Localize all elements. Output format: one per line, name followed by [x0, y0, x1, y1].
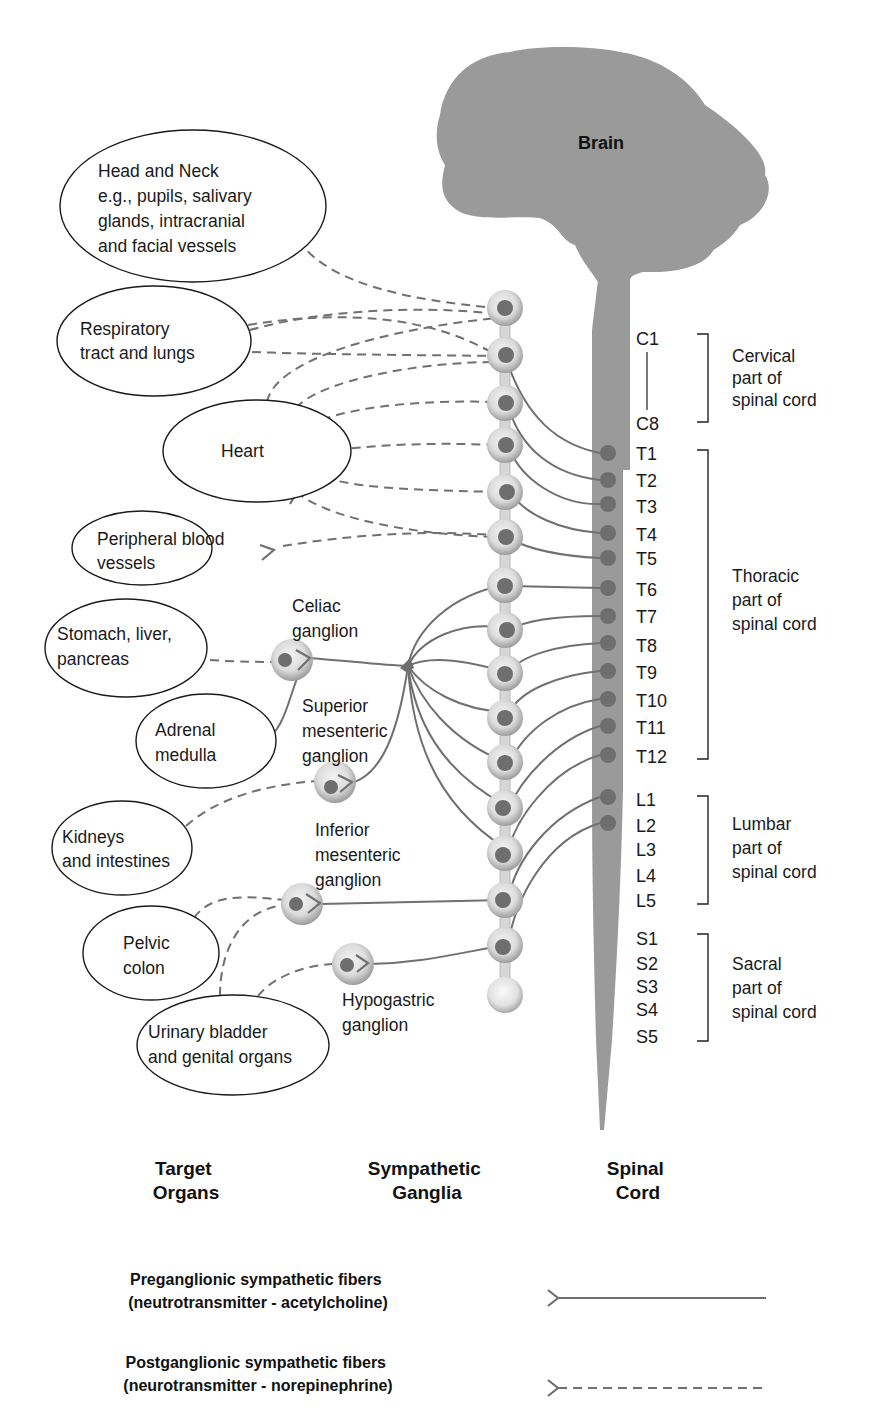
post-fiber-heart-3: [322, 402, 496, 420]
legend-preganglionic: Preganglionic sympathetic fibers (neutro…: [128, 1271, 766, 1311]
post-fiber-heart-1: [267, 318, 496, 402]
chain-neuron-7: [497, 578, 513, 594]
chain-neuron-15: [495, 939, 511, 955]
chain-neuron-6: [498, 529, 514, 545]
pre-fiber-to-hypogastric: [370, 945, 505, 964]
legend: Preganglionic sympathetic fibers (neutro…: [123, 1271, 766, 1396]
segment-L1: L1: [636, 790, 656, 810]
segment-C1: C1: [636, 329, 659, 349]
chain-neuron-5: [499, 484, 515, 500]
cell-body-T8: [600, 635, 616, 651]
segment-T5: T5: [636, 549, 657, 569]
post-fiber-stomach: [210, 660, 280, 662]
cervical-region-label: Cervical part of spinal cord: [732, 346, 817, 410]
pre-fiber-to-celiac: [308, 658, 408, 666]
segment-T10: T10: [636, 691, 667, 711]
segment-T11: T11: [636, 718, 666, 738]
segment-T3: T3: [636, 497, 657, 517]
chain-neuron-2: [498, 347, 514, 363]
segment-S3: S3: [636, 977, 658, 997]
segment-S5: S5: [636, 1027, 658, 1047]
superior-mesenteric-neuron: [324, 780, 338, 794]
cell-body-T12: [600, 747, 616, 763]
pre-fiber-T8: [510, 643, 600, 672]
organ-pelvic-colon: Pelvic colon: [83, 906, 219, 1000]
organ-bladder-genital: Urinary bladder and genital organs: [137, 995, 329, 1095]
cervical-bracket: [697, 334, 708, 422]
splanchnic-6: [408, 666, 505, 805]
organ-stomach-outline: [45, 599, 207, 697]
inferior-mesenteric-neuron: [289, 897, 303, 911]
organ-peripheral-vessels: Peripheral blood vessels: [72, 511, 229, 585]
segment-S1: S1: [636, 929, 658, 949]
sacral-bracket: [697, 934, 708, 1041]
chain-neuron-11: [497, 755, 513, 771]
region-brackets: Cervical part of spinal cord Thoracic pa…: [697, 334, 817, 1041]
segment-L3: L3: [636, 840, 656, 860]
chain-neuron-4: [498, 437, 514, 453]
sympathetic-nervous-system-diagram: Brain C1 C8 T1 T2 T3 T4 T5 T6 T7 T8 T9 T…: [0, 0, 877, 1415]
inferior-mesenteric-ganglion-label: Inferior mesenteric ganglion: [315, 820, 405, 890]
segment-L5: L5: [636, 891, 656, 911]
column-header-sympathetic-ganglia: Sympathetic Ganglia: [368, 1158, 486, 1203]
segment-T1: T1: [636, 444, 657, 464]
column-headers: Target Organs Sympathetic Ganglia Spinal…: [153, 1158, 669, 1203]
thoracic-bracket: [697, 450, 708, 759]
organ-kidneys-outline: [52, 801, 192, 895]
legend-solid-synapse-icon: [548, 1290, 558, 1306]
synapse-peripheral-icon: [260, 545, 274, 560]
organ-pelvic-outline: [83, 906, 219, 1000]
segment-T12: T12: [636, 747, 667, 767]
cell-body-T11: [600, 718, 616, 734]
organ-adrenal-outline: [136, 694, 276, 788]
legend-preganglionic-label: Preganglionic sympathetic fibers (neutro…: [128, 1271, 388, 1311]
post-fiber-respiratory-2: [252, 352, 496, 356]
hypogastric-ganglion: Hypogastric ganglion: [332, 943, 439, 1035]
hypogastric-ganglion-label: Hypogastric ganglion: [342, 990, 439, 1035]
organ-kidneys-intestines: Kidneys and intestines: [52, 801, 192, 895]
chain-ganglion-16-empty: [487, 977, 523, 1013]
hypogastric-neuron: [340, 958, 354, 972]
organ-respiratory: Respiratory tract and lungs: [57, 286, 251, 396]
segment-T9: T9: [636, 663, 657, 683]
segment-T2: T2: [636, 471, 657, 491]
chain-neuron-13: [495, 847, 511, 863]
organ-heart: Heart: [163, 400, 351, 502]
pre-fiber-T4: [510, 492, 600, 533]
cell-body-T5: [600, 550, 616, 566]
sympathetic-chain: [487, 290, 523, 1013]
cell-body-L2: [600, 815, 616, 831]
column-header-target-organs: Target Organs: [153, 1158, 220, 1203]
chain-neuron-8: [499, 622, 515, 638]
organ-bladder-outline: [137, 995, 329, 1095]
chain-neuron-14: [495, 892, 511, 908]
cell-body-T2: [600, 472, 616, 488]
segment-T8: T8: [636, 636, 657, 656]
segment-S4: S4: [636, 1000, 658, 1020]
cell-body-L1: [600, 789, 616, 805]
chain-neuron-10: [497, 710, 513, 726]
legend-dashed-synapse-icon: [548, 1380, 558, 1396]
segment-T7: T7: [636, 607, 657, 627]
column-header-spinal-cord: Spinal Cord: [607, 1158, 669, 1203]
cell-body-T6: [600, 580, 616, 596]
brain-label: Brain: [578, 133, 624, 153]
post-fiber-head-neck-2: [250, 310, 496, 330]
segment-L4: L4: [636, 866, 656, 886]
post-fiber-heart-5: [325, 478, 496, 492]
superior-mesenteric-ganglion-label: Superior mesenteric ganglion: [302, 696, 392, 766]
celiac-neuron: [278, 653, 292, 667]
thoracic-region-label: Thoracic part of spinal cord: [732, 566, 817, 634]
pre-fiber-T9: [510, 671, 600, 712]
segment-L2: L2: [636, 816, 656, 836]
sacral-region-label: Sacral part of spinal cord: [732, 954, 817, 1022]
cell-body-T3: [600, 496, 616, 512]
organ-stomach-liver-pancreas: Stomach, liver, pancreas: [45, 599, 207, 697]
superior-mesenteric-ganglion: Superior mesenteric ganglion: [302, 696, 392, 803]
post-fiber-peripheral: [283, 533, 496, 546]
pre-fiber-T6: [510, 586, 600, 588]
legend-postganglionic-label: Postganglionic sympathetic fibers (neuro…: [123, 1354, 392, 1394]
pre-fiber-to-inferior-mesenteric: [320, 900, 505, 904]
organ-adrenal-medulla: Adrenal medulla: [136, 694, 276, 788]
pre-fiber-T7: [510, 616, 600, 630]
